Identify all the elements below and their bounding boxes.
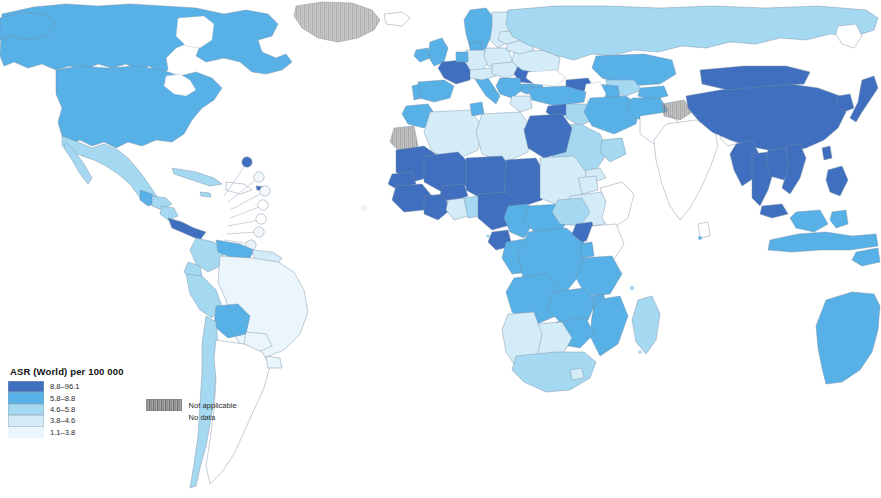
legend-label: 5.8–8.8	[50, 394, 75, 403]
region-taiwan	[822, 146, 832, 160]
legend-title: ASR (World) per 100 000	[10, 366, 278, 377]
region-jamaica	[200, 192, 211, 197]
no-data-swatch	[146, 411, 182, 422]
legend-swatch	[8, 381, 44, 392]
legend-scale: 8.8–96.1 5.8–8.8 4.6–5.8 3.8–4.6 1.1–3.8	[8, 381, 80, 438]
island-dot	[698, 236, 702, 240]
island-dot	[486, 234, 489, 237]
callout-circle	[256, 214, 266, 224]
region-sri-lanka	[698, 222, 710, 238]
legend-label: 3.8–4.6	[50, 416, 75, 425]
legend-item-no-data: No data	[146, 411, 237, 423]
world-map-figure: ASR (World) per 100 000 8.8–96.1 5.8–8.8…	[0, 0, 881, 498]
map-legend: ASR (World) per 100 000 8.8–96.1 5.8–8.8…	[8, 366, 278, 462]
legend-swatch	[8, 427, 44, 438]
legend-label: 8.8–96.1	[50, 382, 80, 391]
callout-circle	[260, 186, 270, 196]
legend-label: 1.1–3.8	[50, 428, 75, 437]
callout-circle	[254, 227, 264, 237]
island-dot	[638, 350, 641, 353]
legend-item-not-applicable: Not applicable	[146, 399, 237, 411]
region-lesotho	[570, 368, 584, 380]
legend-item: 8.8–96.1	[8, 381, 80, 392]
legend-item: 3.8–4.6	[8, 415, 80, 426]
legend-item: 1.1–3.8	[8, 427, 80, 438]
region-netherlands-belgium	[456, 52, 468, 62]
not-applicable-label: Not applicable	[189, 401, 237, 410]
not-applicable-swatch	[146, 399, 182, 410]
region-rwanda-burundi	[580, 242, 594, 258]
callout-circle	[254, 172, 264, 182]
legend-extra: Not applicable No data	[146, 381, 237, 423]
legend-swatch	[8, 392, 44, 403]
legend-swatch	[8, 415, 44, 426]
legend-item: 4.6–5.8	[8, 404, 80, 415]
island-dot	[630, 286, 634, 290]
legend-label: 4.6–5.8	[50, 405, 75, 414]
region-denmark	[470, 42, 482, 50]
callout-circle	[258, 200, 268, 210]
no-data-label: No data	[189, 413, 216, 422]
island-dot	[362, 206, 366, 210]
legend-swatch	[8, 404, 44, 415]
legend-item: 5.8–8.8	[8, 392, 80, 403]
callout-circle	[242, 157, 252, 167]
